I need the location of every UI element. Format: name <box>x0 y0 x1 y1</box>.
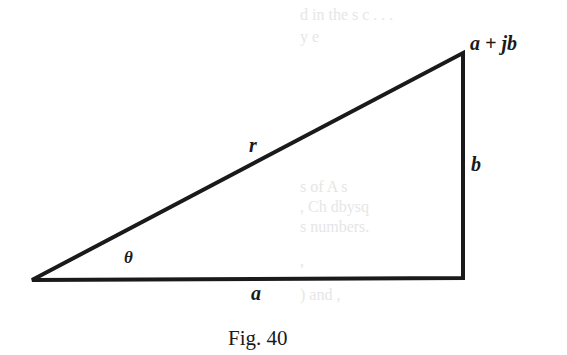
svg-text:,: , <box>300 252 304 269</box>
triangle <box>32 53 463 280</box>
svg-text:s of A s: s of A s <box>300 178 348 195</box>
svg-text:d in the s c .: d in the s c . . . <box>300 6 393 23</box>
figure-caption: Fig. 40 <box>228 326 288 350</box>
hypotenuse-label: r <box>249 134 257 156</box>
opposite-side-label: b <box>471 153 481 175</box>
svg-text:) and: ) and , <box>300 286 340 304</box>
angle-label: θ <box>124 248 133 267</box>
adjacent-side-label: a <box>251 282 261 304</box>
bleed-through-text: d in the s c . . . y e s of A s , Ch dby… <box>300 6 393 304</box>
complex-number-triangle-diagram: d in the s c . . . y e s of A s , Ch dby… <box>0 0 567 355</box>
svg-text:, Ch dbysq: , Ch dbysq <box>300 198 369 216</box>
svg-text:y e: y e <box>300 28 319 46</box>
apex-label: a + jb <box>470 32 517 55</box>
svg-text:s numbers.: s numbers. <box>300 218 369 235</box>
